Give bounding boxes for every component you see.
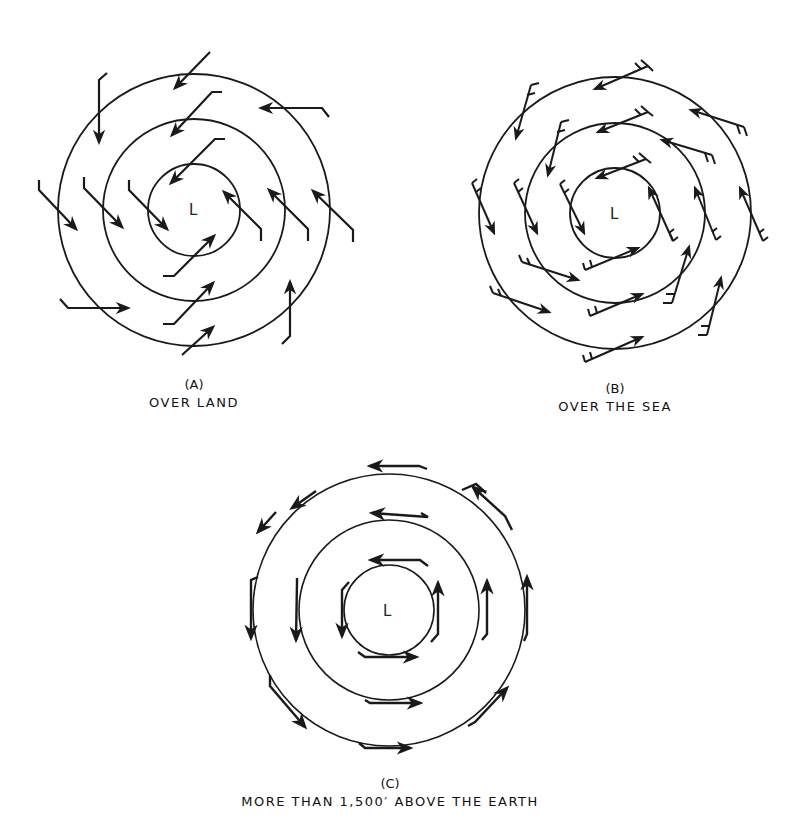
low-pressure-label-c: L xyxy=(383,602,392,620)
caption-a: (A) OVER LAND xyxy=(94,376,294,412)
panel-b-over-the-sea: L xyxy=(472,60,768,362)
low-pressure-label-b: L xyxy=(610,205,619,223)
caption-text-c: MORE THAN 1,500′ ABOVE THE EARTH xyxy=(241,794,538,809)
panel-letter-a: (A) xyxy=(94,376,294,394)
caption-text-b: OVER THE SEA xyxy=(558,399,672,414)
low-pressure-label-a: L xyxy=(189,201,198,219)
wind-arrows-b xyxy=(472,60,768,362)
panel-a-over-land: L xyxy=(39,52,353,355)
panel-letter-c: (C) xyxy=(190,775,590,793)
panel-letter-b: (B) xyxy=(515,380,715,398)
caption-c: (C) MORE THAN 1,500′ ABOVE THE EARTH xyxy=(190,775,590,811)
caption-text-a: OVER LAND xyxy=(149,395,239,410)
panel-c-aloft: L xyxy=(251,466,527,748)
caption-b: (B) OVER THE SEA xyxy=(515,380,715,416)
